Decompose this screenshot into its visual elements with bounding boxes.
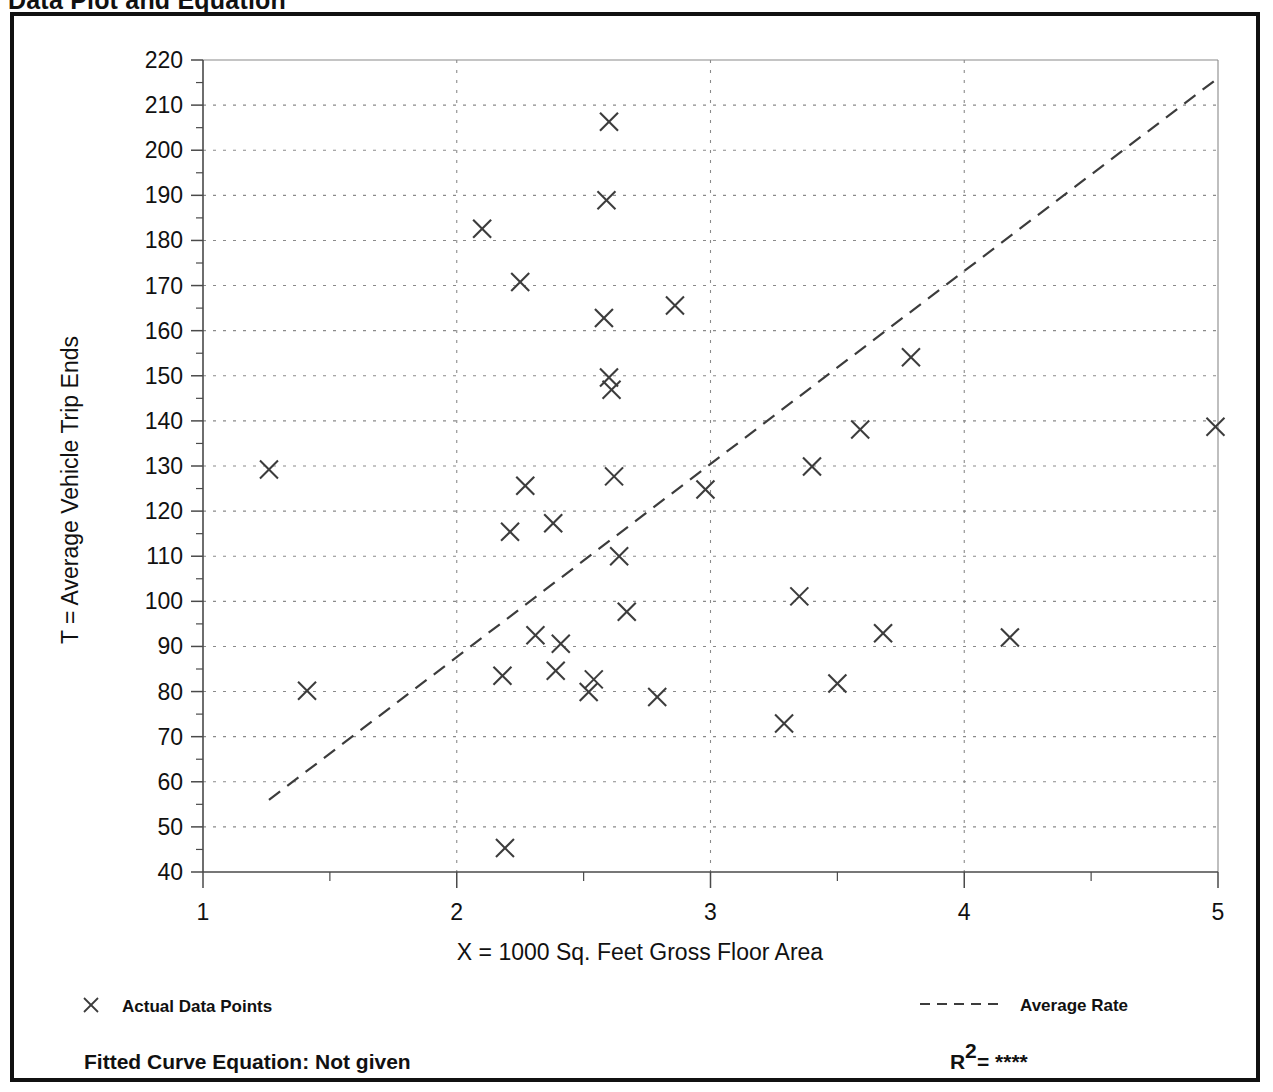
x-tick-label: 3 xyxy=(704,899,717,925)
y-tick-label: 110 xyxy=(146,543,183,569)
r-squared-value: = **** xyxy=(977,1050,1029,1073)
y-tick-label: 220 xyxy=(145,47,183,73)
data-point-marker xyxy=(511,273,529,291)
data-point-marker xyxy=(603,381,621,399)
y-tick-label: 200 xyxy=(145,137,183,163)
vertical-gridlines xyxy=(457,60,965,872)
x-tick-label: 2 xyxy=(450,899,463,925)
y-tick-label: 100 xyxy=(145,588,183,614)
data-point-marker xyxy=(516,477,534,495)
y-tick-label: 120 xyxy=(145,498,183,524)
x-axis xyxy=(203,872,1218,888)
y-tick-label: 40 xyxy=(157,859,183,885)
data-point-marker xyxy=(597,191,615,209)
data-point-marker xyxy=(1001,628,1019,646)
r-squared-annotation: R 2 = **** xyxy=(950,1039,1029,1073)
x-axis-title: X = 1000 Sq. Feet Gross Floor Area xyxy=(457,939,823,965)
y-tick-label: 80 xyxy=(157,679,183,705)
legend-item-average-rate[interactable]: Average Rate xyxy=(920,996,1128,1015)
data-point-marker xyxy=(595,309,613,327)
y-tick-label: 190 xyxy=(145,182,183,208)
y-tick-label: 210 xyxy=(145,92,183,118)
legend-label-average-rate: Average Rate xyxy=(1020,996,1128,1015)
chart-svg: 4050607080901001101201301401501601701801… xyxy=(0,0,1273,1092)
data-point-marker xyxy=(544,514,562,532)
data-point-marker xyxy=(552,635,570,653)
y-tick-label: 90 xyxy=(157,633,183,659)
data-point-marker xyxy=(874,624,892,642)
data-point-markers xyxy=(260,113,1224,857)
x-tick-labels: 12345 xyxy=(197,899,1225,925)
data-point-marker xyxy=(600,113,618,131)
y-tick-label: 180 xyxy=(145,227,183,253)
data-point-marker xyxy=(851,420,869,438)
fitted-curve-equation: Fitted Curve Equation: Not given xyxy=(84,1050,411,1073)
data-point-marker xyxy=(618,603,636,621)
y-tick-label: 50 xyxy=(157,814,183,840)
y-tick-label: 150 xyxy=(145,363,183,389)
data-point-marker xyxy=(501,523,519,541)
scatter-chart: 4050607080901001101201301401501601701801… xyxy=(0,0,1273,1092)
y-tick-label: 170 xyxy=(145,273,183,299)
y-tick-label: 140 xyxy=(145,408,183,434)
data-point-marker xyxy=(600,369,618,387)
y-axis-title: T = Average Vehicle Trip Ends xyxy=(57,336,83,644)
data-point-marker xyxy=(902,348,920,366)
data-point-marker xyxy=(648,688,666,706)
horizontal-gridlines xyxy=(203,105,1218,827)
data-point-marker xyxy=(790,587,808,605)
x-tick-label: 4 xyxy=(958,899,971,925)
data-point-marker xyxy=(493,667,511,685)
y-tick-label: 160 xyxy=(145,318,183,344)
data-point-marker xyxy=(696,480,714,498)
data-point-marker xyxy=(260,461,278,479)
y-tick-label: 60 xyxy=(157,769,183,795)
data-point-marker xyxy=(775,715,793,733)
data-point-marker xyxy=(828,674,846,692)
data-point-marker xyxy=(547,662,565,680)
data-point-marker xyxy=(473,220,491,238)
r-squared-exponent: 2 xyxy=(965,1039,977,1062)
data-point-marker xyxy=(666,296,684,314)
y-tick-labels: 4050607080901001101201301401501601701801… xyxy=(145,47,183,885)
data-point-marker xyxy=(526,626,544,644)
x-tick-label: 1 xyxy=(197,899,210,925)
legend-item-actual-data-points[interactable]: Actual Data Points xyxy=(84,997,272,1016)
data-point-marker xyxy=(605,467,623,485)
r-squared-label: R xyxy=(950,1050,965,1073)
data-point-marker xyxy=(298,682,316,700)
y-tick-label: 70 xyxy=(157,724,183,750)
x-tick-label: 5 xyxy=(1212,899,1225,925)
legend-label-actual-data-points: Actual Data Points xyxy=(122,997,272,1016)
data-point-marker xyxy=(496,839,514,857)
y-axis xyxy=(191,60,203,872)
y-tick-label: 130 xyxy=(145,453,183,479)
